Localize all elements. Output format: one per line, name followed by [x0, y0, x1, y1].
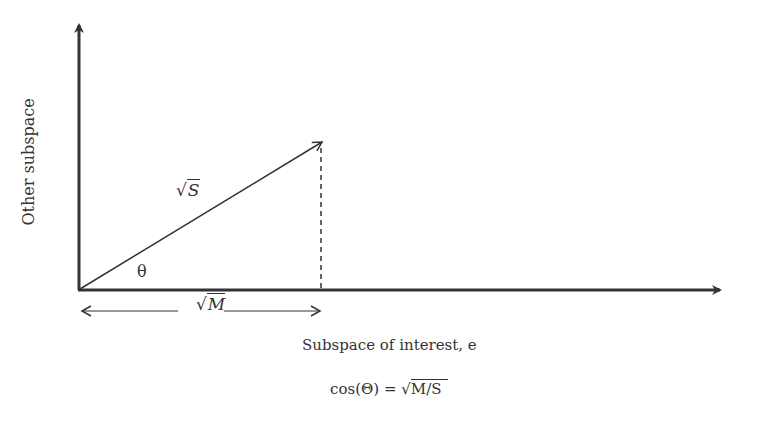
formula: cos(Θ) = √M/S	[330, 380, 448, 398]
diagram-graphics	[0, 0, 757, 427]
projection-variable: M	[207, 293, 225, 314]
radical-symbol: √	[196, 294, 207, 314]
projection-label: √M	[196, 294, 225, 314]
vector-s	[80, 142, 322, 289]
vector-label: √S	[176, 180, 200, 200]
vector-variable: S	[187, 179, 200, 200]
diagram-canvas: Other subspace θ √S √M Subspace of inter…	[0, 0, 757, 427]
formula-lhs: cos(Θ) =	[330, 380, 401, 398]
y-axis-label: Other subspace	[19, 98, 38, 225]
formula-rhs: M/S	[411, 379, 448, 398]
angle-label: θ	[137, 262, 147, 281]
radical-symbol: √	[176, 180, 187, 200]
x-axis-label: Subspace of interest, e	[302, 336, 477, 354]
radical-symbol: √	[401, 380, 411, 398]
